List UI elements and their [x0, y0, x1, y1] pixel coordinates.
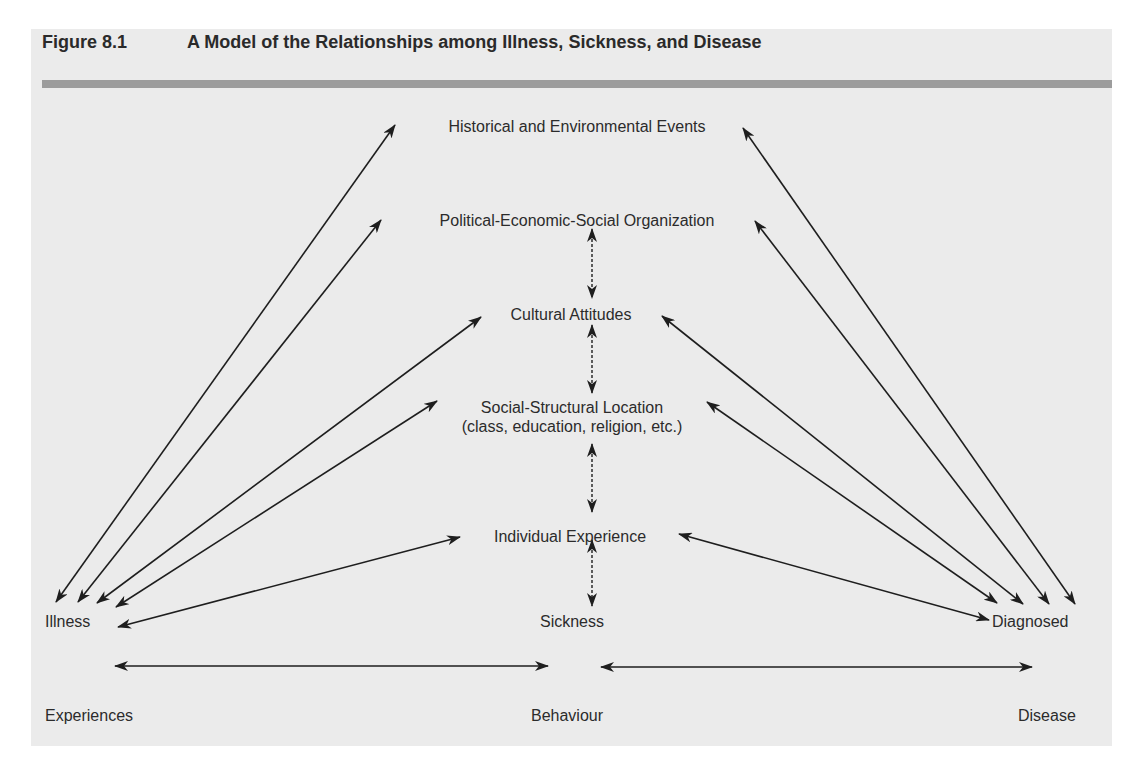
node-historical-events: Historical and Environmental Events — [448, 117, 705, 136]
arrow-diagnosed-cultural — [662, 316, 1023, 604]
label-disease: Disease — [1018, 706, 1076, 725]
node-political-economic-social: Political-Economic-Social Organization — [440, 211, 715, 230]
node-social-structural-location: Social-Structural Location (class, educa… — [462, 398, 683, 436]
node-sickness: Sickness — [540, 612, 604, 631]
node-diagnosed: Diagnosed — [992, 612, 1069, 631]
arrow-illness-political — [78, 220, 381, 602]
node-cultural-attitudes: Cultural Attitudes — [511, 305, 632, 324]
node-illness: Illness — [45, 612, 90, 631]
label-behaviour: Behaviour — [531, 706, 603, 725]
arrow-diagnosed-historical — [743, 128, 1075, 604]
social-location-title: Social-Structural Location — [462, 398, 683, 417]
arrow-illness-social — [116, 401, 437, 607]
label-experiences: Experiences — [45, 706, 133, 725]
arrow-illness-individual — [118, 537, 460, 627]
arrow-diagnosed-individual — [679, 534, 989, 620]
arrow-diagnosed-political — [755, 221, 1049, 604]
node-individual-experience: Individual Experience — [494, 527, 646, 546]
arrow-illness-historical — [56, 125, 395, 602]
social-location-subtitle: (class, education, religion, etc.) — [462, 417, 683, 436]
arrow-diagnosed-social — [707, 402, 997, 603]
arrow-illness-cultural — [97, 317, 481, 603]
